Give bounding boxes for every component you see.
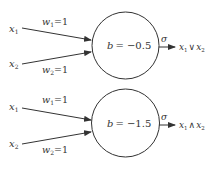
output-label-and: x1∧x2 [179, 120, 205, 131]
input-x1-label: x1 [9, 101, 18, 113]
weight-w1-label: w1=1 [42, 16, 68, 28]
or-perceptron: x1 x2 w1=1 w2=1 b= −0.5 σ x1∨x2 [9, 12, 205, 79]
perceptron-diagram: x1 x2 w1=1 w2=1 b= −0.5 σ x1∨x2 x1 x2 w1… [0, 0, 215, 169]
bias-label: b= −1.5 [107, 118, 151, 129]
weight-w2-label: w2=1 [42, 64, 68, 76]
input-x2-label: x2 [9, 58, 19, 70]
input-x1-label: x1 [9, 23, 18, 35]
bias-label: b= −0.5 [107, 40, 151, 51]
output-label-or: x1∨x2 [179, 42, 205, 53]
input-x2-arrow [22, 52, 91, 64]
input-x2-arrow [22, 132, 91, 144]
weight-w1-label: w1=1 [42, 94, 68, 106]
input-x1-arrow [22, 108, 91, 120]
activation-sigma: σ [161, 34, 168, 44]
input-x1-arrow [22, 28, 91, 40]
input-x2-label: x2 [9, 138, 19, 150]
weight-w2-label: w2=1 [42, 144, 68, 156]
and-perceptron: x1 x2 w1=1 w2=1 b= −1.5 σ x1∧x2 [9, 89, 205, 157]
activation-sigma: σ [161, 112, 168, 122]
